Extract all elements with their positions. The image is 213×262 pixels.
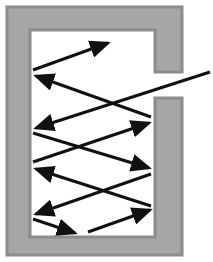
cavity-reflection-diagram xyxy=(0,0,213,262)
ray-arrow-r2 xyxy=(33,123,149,162)
ray-arrow-r7 xyxy=(33,219,75,233)
ray-arrow-incoming xyxy=(36,72,210,128)
ray-arrow-r5 xyxy=(36,169,151,206)
ray-arrow-r6 xyxy=(36,174,151,214)
cavity-wall xyxy=(7,7,182,255)
cavity-walls xyxy=(7,7,182,255)
ray-arrow-r8 xyxy=(88,210,150,232)
ray-arrow-r1 xyxy=(33,133,149,168)
ray-arrow-r4 xyxy=(33,43,108,70)
